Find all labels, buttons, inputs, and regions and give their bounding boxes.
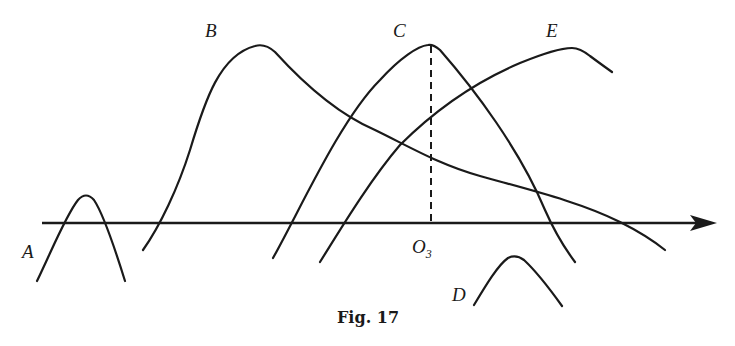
curve-d [474,256,562,306]
curve-a [37,196,125,282]
label-e: E [545,20,558,41]
curve-b [143,45,665,250]
figure-17-diagram: A B C D E O3 Fig. 17 [0,0,735,346]
label-a: A [20,241,34,262]
label-d: D [451,284,466,305]
label-b: B [205,20,217,41]
origin-subscript: 3 [425,247,432,261]
origin-label: O3 [412,236,432,261]
figure-caption: Fig. 17 [337,308,399,327]
label-c: C [393,20,406,41]
horizontal-axis [42,215,717,231]
origin-letter: O [412,236,426,257]
